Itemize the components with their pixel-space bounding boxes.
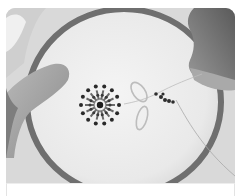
flower-inner-bead [109, 104, 112, 107]
flower-inner-bead [108, 99, 111, 102]
flower-inner-bead [92, 111, 95, 114]
image-card[interactable] [6, 8, 235, 196]
flower-petal-bead [81, 111, 85, 115]
flower-petal-bead [117, 103, 121, 107]
flower-petal-bead [102, 122, 106, 126]
flower-petal-bead [86, 118, 90, 122]
flower-inner-bead [105, 111, 108, 114]
card-caption [6, 183, 235, 196]
flower-inner-bead [92, 96, 95, 99]
flower-inner-bead [89, 99, 92, 102]
flower-petal-bead [110, 88, 114, 92]
flower-petal-bead [86, 88, 90, 92]
flower-petal-bead [115, 111, 119, 115]
flower-petal-bead [81, 95, 85, 99]
flower-inner-bead [101, 113, 104, 116]
flower-inner-bead [89, 104, 92, 107]
flower-inner-bead [108, 108, 111, 111]
flower-petal-bead [94, 84, 98, 88]
flower-petal-bead [94, 122, 98, 126]
flower-inner-bead [96, 94, 99, 97]
flower-petal-bead [79, 103, 83, 107]
flower-petal-bead [110, 118, 114, 122]
flower-inner-bead [101, 94, 104, 97]
flower-petal-bead [102, 84, 106, 88]
flower-inner-bead [96, 113, 99, 116]
flower-inner-bead [89, 108, 92, 111]
flower-center-bead [97, 102, 103, 108]
flower-inner-bead [105, 96, 108, 99]
embroidery-photo [6, 8, 235, 183]
flower-petal-bead [115, 95, 119, 99]
